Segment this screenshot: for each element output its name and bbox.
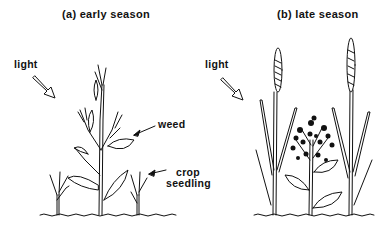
- weed-annotation-arrow: [134, 126, 155, 136]
- crop-annotation-arrow: [149, 170, 166, 176]
- light-arrow-icon-b: [221, 78, 243, 100]
- ground-line-b: [254, 214, 374, 216]
- crop-seedling-left: [50, 172, 69, 215]
- flowering-weed: [285, 116, 342, 216]
- mature-crop-left: [256, 48, 297, 215]
- mature-crop-right: [332, 38, 372, 215]
- light-arrow-icon-a: [33, 76, 55, 98]
- weed-plant: [68, 65, 134, 215]
- ground-line-a: [40, 214, 176, 216]
- diagram-canvas: [0, 0, 388, 231]
- crop-seedling-right: [131, 172, 147, 215]
